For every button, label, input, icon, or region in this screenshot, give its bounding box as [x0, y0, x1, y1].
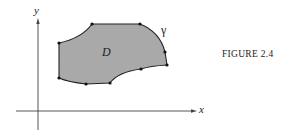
x-axis-arrow-icon	[191, 109, 197, 112]
figure-caption: FIGURE 2.4	[222, 49, 274, 59]
boundary-label: γ	[161, 23, 166, 38]
y-axis-arrow-icon	[36, 18, 39, 24]
region-d	[59, 24, 167, 84]
y-axis-label: y	[34, 4, 39, 16]
x-axis-label: x	[199, 103, 204, 115]
figure-diagram	[0, 0, 300, 137]
region-label: D	[102, 45, 111, 60]
